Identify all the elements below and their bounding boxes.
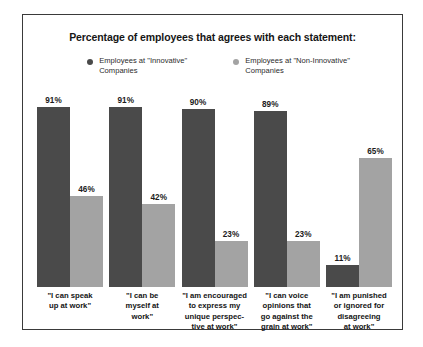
category-label: "I am encouraged to express my unique pe… xyxy=(182,291,248,333)
bar-value-label: 91% xyxy=(118,96,134,105)
bar-light xyxy=(70,196,103,287)
category-labels: "I can speak up at work" "I can be mysel… xyxy=(37,291,392,333)
bar-value-label: 11% xyxy=(335,254,351,263)
bar-dark xyxy=(109,107,142,287)
bar-dark xyxy=(254,111,287,287)
bar-group: 89% 23% xyxy=(254,89,320,287)
bar-column-dark: 90% xyxy=(182,89,215,287)
chart-legend: Employees at "Innovative" Companies Empl… xyxy=(23,56,402,76)
category-label: "I can voice opinions that go against th… xyxy=(254,291,320,333)
bar-group: 91% 46% xyxy=(37,89,103,287)
category-label: "I can be myself at work" xyxy=(109,291,175,333)
category-label: "I can speak up at work" xyxy=(37,291,103,333)
bar-value-label: 23% xyxy=(223,230,239,239)
bar-dark xyxy=(37,107,70,287)
category-label: "I am punished or ignored for disagreein… xyxy=(326,291,392,333)
bar-light xyxy=(359,158,392,287)
bar-light xyxy=(215,241,248,287)
legend-label-non-innovative: Employees at "Non-Innovative" Companies xyxy=(245,56,350,76)
legend-item-non-innovative: Employees at "Non-Innovative" Companies xyxy=(233,56,350,76)
bar-dark xyxy=(182,109,215,287)
bar-value-label: 23% xyxy=(295,230,311,239)
bar-group: 11% 65% xyxy=(326,89,392,287)
bar-value-label: 42% xyxy=(151,193,167,202)
bar-column-light: 42% xyxy=(142,89,175,287)
bar-column-dark: 11% xyxy=(326,89,359,287)
bar-column-light: 46% xyxy=(70,89,103,287)
chart-frame: Percentage of employees that agrees with… xyxy=(22,14,403,330)
legend-swatch-icon xyxy=(233,59,239,65)
bar-value-label: 91% xyxy=(45,96,61,105)
bar-value-label: 90% xyxy=(190,98,206,107)
bar-dark xyxy=(326,265,359,287)
bar-column-light: 23% xyxy=(215,89,248,287)
legend-label-innovative: Employees at "Innovative" Companies xyxy=(99,56,187,76)
bar-light xyxy=(142,204,175,287)
bar-column-light: 23% xyxy=(287,89,320,287)
legend-item-innovative: Employees at "Innovative" Companies xyxy=(87,56,187,76)
bar-group: 91% 42% xyxy=(109,89,175,287)
plot-area: 91% 46% 91% 42% xyxy=(37,89,392,325)
bar-light xyxy=(287,241,320,287)
bar-column-light: 65% xyxy=(359,89,392,287)
bar-column-dark: 91% xyxy=(37,89,70,287)
bar-value-label: 89% xyxy=(262,100,278,109)
bar-value-label: 65% xyxy=(367,147,383,156)
bar-column-dark: 89% xyxy=(254,89,287,287)
bar-column-dark: 91% xyxy=(109,89,142,287)
chart-title: Percentage of employees that agrees with… xyxy=(23,31,402,43)
bar-group: 90% 23% xyxy=(182,89,248,287)
bars-area: 91% 46% 91% 42% xyxy=(37,89,392,287)
legend-swatch-icon xyxy=(87,59,93,65)
bar-value-label: 46% xyxy=(78,185,94,194)
